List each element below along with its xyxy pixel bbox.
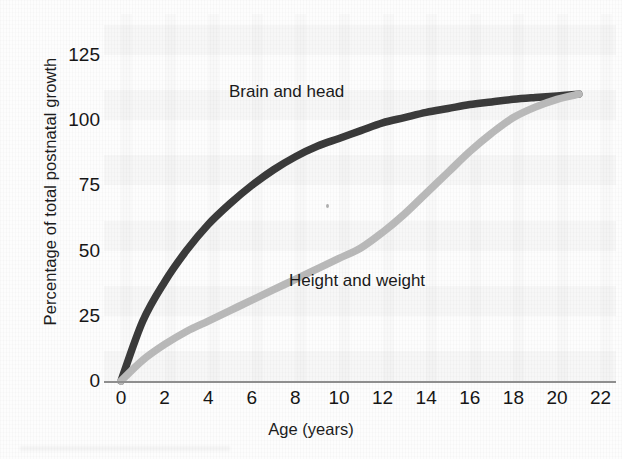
y-tick-label: 0 [42,371,100,390]
x-tick-label: 6 [232,388,272,407]
y-tick-label: 25 [42,306,100,325]
y-tick-label: 125 [42,45,100,64]
x-tick-label: 18 [493,388,533,407]
x-tick-label: 22 [581,388,621,407]
x-tick-label: 2 [145,388,185,407]
x-tick-label: 8 [275,388,315,407]
x-tick-label: 14 [406,388,446,407]
series-label-brain-and-head: Brain and head [229,83,344,100]
y-tick-label: 50 [42,241,100,260]
x-tick-label: 16 [450,388,490,407]
y-tick-label: 100 [42,110,100,129]
x-axis-title: Age (years) [0,420,622,439]
x-tick-label: 4 [188,388,228,407]
x-tick-label: 20 [537,388,577,407]
x-tick-label: 0 [101,388,141,407]
x-axis-line [104,381,616,383]
y-tick-label: 75 [42,175,100,194]
series-curve-brain-and-head [121,94,579,381]
series-label-height-and-weight: Height and weight [289,272,425,289]
y-axis-tick-labels: 0255075100125 [38,0,100,459]
x-tick-label: 10 [319,388,359,407]
x-tick-label: 12 [363,388,403,407]
curves-group [121,94,579,381]
growth-curve-figure: Percentage of total postnatal growth 025… [0,0,622,459]
